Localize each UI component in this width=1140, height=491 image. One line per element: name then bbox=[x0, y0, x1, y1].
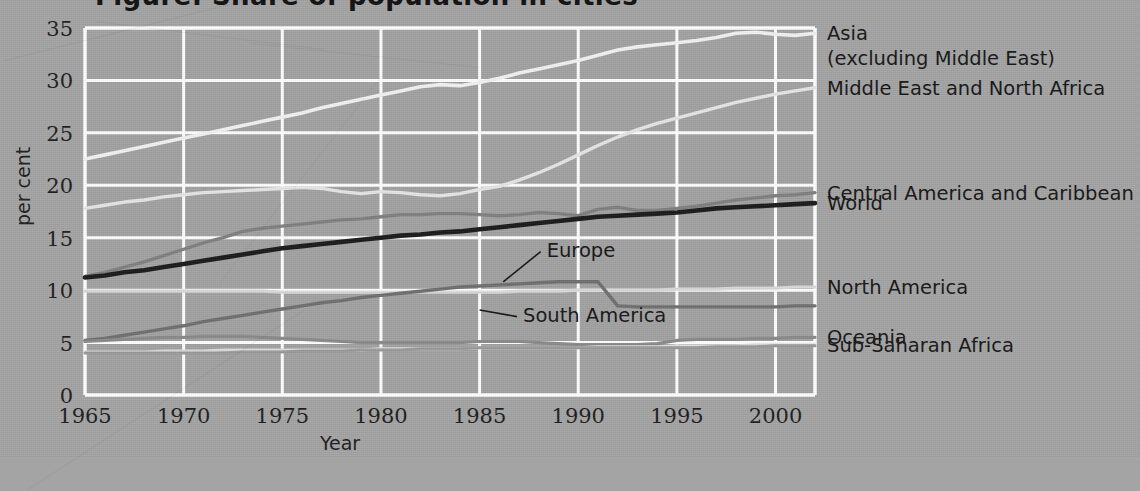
x-tick-label: 1990 bbox=[552, 404, 605, 428]
y-tick-label: 25 bbox=[46, 122, 73, 146]
y-axis-title: per cent bbox=[12, 147, 34, 226]
y-tick-label: 20 bbox=[46, 174, 73, 198]
legend-item-world[interactable]: World bbox=[827, 192, 883, 215]
legend-label-mena: Middle East and North Africa bbox=[827, 77, 1105, 100]
y-tick-label: 5 bbox=[60, 332, 73, 356]
annotation-label-south-america: South America bbox=[523, 304, 666, 327]
y-tick-label: 35 bbox=[46, 17, 73, 41]
x-tick-label: 1975 bbox=[256, 404, 309, 428]
y-tick-label: 30 bbox=[46, 69, 73, 93]
legend-item-north-america[interactable]: North America bbox=[827, 276, 968, 299]
figure-title: Figure: Share of population in cities bbox=[95, 0, 638, 11]
x-tick-label: 2000 bbox=[749, 404, 802, 428]
legend-right: Asia(excluding Middle East)Middle East a… bbox=[827, 22, 1134, 356]
x-tick-label: 1985 bbox=[453, 404, 506, 428]
y-axis-tick-labels: 05101520253035 bbox=[46, 17, 73, 408]
annotation-label-europe: Europe bbox=[547, 239, 616, 262]
y-tick-label: 10 bbox=[46, 279, 73, 303]
legend-item-sub-saharan-africa[interactable]: Sub-Saharan Africa bbox=[827, 334, 1014, 357]
legend-label-world: World bbox=[827, 192, 883, 215]
legend-label-asia: Asia bbox=[827, 22, 868, 45]
x-tick-label: 1980 bbox=[354, 404, 407, 428]
y-tick-label: 15 bbox=[46, 227, 73, 251]
legend-sublabel-asia: (excluding Middle East) bbox=[827, 47, 1055, 70]
legend-label-north-america: North America bbox=[827, 276, 968, 299]
x-tick-label: 1970 bbox=[157, 404, 210, 428]
legend-item-mena[interactable]: Middle East and North Africa bbox=[827, 77, 1105, 100]
legend-label-sub-saharan-africa: Sub-Saharan Africa bbox=[827, 334, 1014, 357]
x-tick-label: 1995 bbox=[650, 404, 703, 428]
x-axis-tick-labels: 19651970197519801985199019952000 bbox=[58, 404, 802, 428]
legend-item-asia[interactable]: Asia(excluding Middle East) bbox=[827, 22, 1055, 70]
x-tick-label: 1965 bbox=[58, 404, 111, 428]
x-axis-title: Year bbox=[319, 432, 360, 454]
